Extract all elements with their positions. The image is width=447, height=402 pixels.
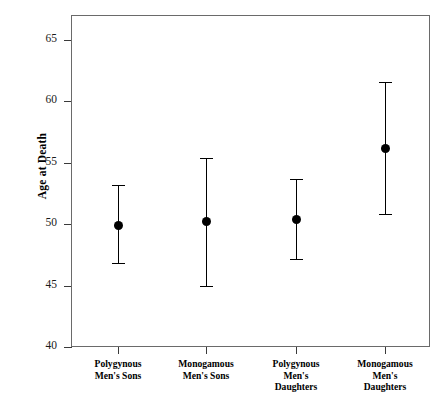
error-bar-cap-lower [290, 259, 303, 260]
data-point-marker [292, 215, 301, 224]
error-bar-cap-upper [112, 185, 125, 186]
error-bar-cap-upper [200, 158, 213, 159]
error-bar-cap-lower [379, 214, 392, 215]
error-bar-cap-upper [290, 179, 303, 180]
y-tick-label: 65 [31, 32, 57, 44]
x-tick-mark-1 [206, 347, 207, 354]
y-tick-label: 55 [31, 155, 57, 167]
x-tick-mark-2 [296, 347, 297, 354]
y-tick-label: 60 [31, 93, 57, 105]
x-tick-mark-0 [118, 347, 119, 354]
y-tick-label: 40 [31, 339, 57, 351]
data-point-marker [202, 217, 211, 226]
x-category-label-3: MonogamousMen'sDaughters [325, 358, 445, 393]
error-bar-cap-lower [200, 286, 213, 287]
x-tick-mark-3 [385, 347, 386, 354]
x-category-label-line: Daughters [325, 381, 445, 393]
data-point-marker [114, 221, 123, 230]
plot-area [71, 15, 430, 347]
y-tick-label: 45 [31, 278, 57, 290]
data-point-marker [381, 144, 390, 153]
y-tick-mark [64, 347, 72, 348]
x-category-label-line: Men's [325, 370, 445, 382]
x-category-label-line: Monogamous [325, 358, 445, 370]
chart-container: Age at Death 404550556065 PolygynousMen'… [0, 0, 447, 402]
error-bar-cap-lower [112, 263, 125, 264]
error-bar-cap-upper [379, 82, 392, 83]
y-tick-label: 50 [31, 216, 57, 228]
